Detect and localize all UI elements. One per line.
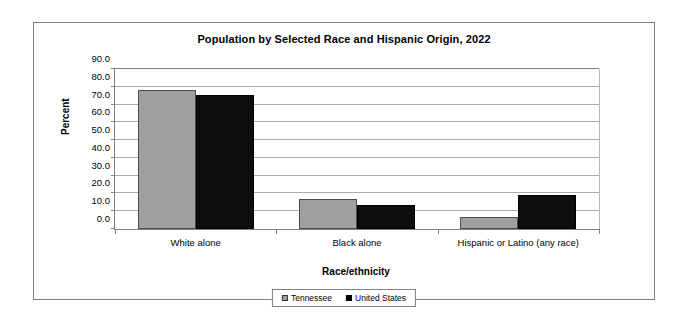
plot-inner: 0.010.020.030.040.050.060.070.080.090.0W… — [115, 69, 599, 229]
bar — [460, 217, 518, 229]
x-axis-tick-mark — [276, 229, 277, 234]
y-axis-tick-label: 20.0 — [92, 177, 111, 188]
y-axis-tick-label: 70.0 — [92, 88, 111, 99]
legend-swatch-icon — [282, 295, 288, 301]
x-axis-title: Race/ethnicity — [114, 266, 598, 277]
y-axis-tick-label: 10.0 — [92, 195, 111, 206]
y-axis-tick-label: 0.0 — [97, 213, 110, 224]
legend-label: United States — [355, 293, 406, 303]
bar — [196, 95, 254, 229]
y-axis-title: Percent — [60, 98, 71, 135]
bar — [518, 195, 576, 229]
x-axis-tick-mark — [599, 229, 600, 234]
legend-item[interactable]: Tennessee — [282, 293, 332, 303]
x-axis-category-label: Hispanic or Latino (any race) — [458, 237, 579, 248]
bar — [299, 199, 357, 229]
legend-label: Tennessee — [291, 293, 332, 303]
bar-group: Black alone — [276, 69, 437, 229]
x-axis-category-label: Black alone — [332, 237, 381, 248]
y-axis-tick-label: 40.0 — [92, 141, 111, 152]
bar — [357, 205, 415, 229]
plot-area: 0.010.020.030.040.050.060.070.080.090.0W… — [114, 69, 600, 230]
x-axis-tick-mark — [438, 229, 439, 234]
y-axis-tick-label: 80.0 — [92, 70, 111, 81]
y-axis-tick-label: 30.0 — [92, 159, 111, 170]
bar — [138, 90, 196, 229]
bar-group: Hispanic or Latino (any race) — [438, 69, 599, 229]
chart-frame: Population by Selected Race and Hispanic… — [33, 22, 655, 300]
x-axis-category-label: White alone — [171, 237, 221, 248]
x-axis-tick-mark — [115, 229, 116, 234]
legend-swatch-icon — [346, 295, 352, 301]
y-axis-tick-label: 50.0 — [92, 124, 111, 135]
chart-legend: TennesseeUnited States — [272, 289, 416, 307]
legend-item[interactable]: United States — [346, 293, 406, 303]
y-axis-tick-label: 90.0 — [92, 53, 111, 64]
bar-group: White alone — [115, 69, 276, 229]
y-axis-tick-label: 60.0 — [92, 106, 111, 117]
chart-title: Population by Selected Race and Hispanic… — [34, 33, 654, 45]
